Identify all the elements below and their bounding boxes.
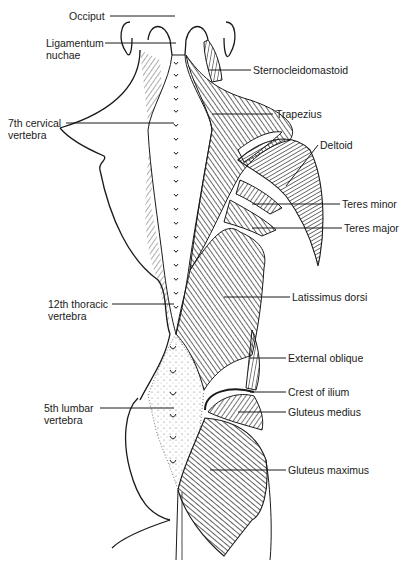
label-occiput: Occiput	[69, 10, 105, 22]
label-text: vertebra	[8, 129, 61, 141]
label-deltoid: Deltoid	[320, 139, 353, 151]
label-text: Deltoid	[320, 139, 353, 151]
anatomy-diagram: Occiput Ligamentum nuchae 7th cervical v…	[0, 0, 404, 574]
label-text: Occiput	[69, 10, 105, 22]
label-5th-lumbar-vertebra: 5th lumbar vertebra	[44, 402, 94, 426]
label-12th-thoracic-vertebra: 12th thoracic vertebra	[48, 298, 108, 322]
label-text: vertebra	[44, 414, 94, 426]
label-trapezius: Trapezius	[276, 108, 322, 120]
label-teres-minor: Teres minor	[342, 198, 397, 210]
label-gluteus-maximus: Gluteus maximus	[288, 464, 369, 476]
neck-outline	[121, 22, 235, 57]
sternocleidomastoid-muscle	[204, 40, 222, 82]
label-sternocleidomastoid: Sternocleidomastoid	[253, 64, 348, 76]
label-crest-of-ilium: Crest of ilium	[288, 386, 349, 398]
label-7th-cervical-vertebra: 7th cervical vertebra	[8, 117, 61, 141]
label-text: Gluteus medius	[288, 406, 361, 418]
label-text: Trapezius	[276, 108, 322, 120]
label-text: External oblique	[288, 352, 363, 364]
label-external-oblique: External oblique	[288, 352, 363, 364]
label-text: nuchae	[46, 49, 104, 61]
label-text: 5th lumbar	[44, 402, 94, 414]
label-text: Gluteus maximus	[288, 464, 369, 476]
label-text: Crest of ilium	[288, 386, 349, 398]
label-text: 12th thoracic	[48, 298, 108, 310]
label-text: vertebra	[48, 310, 108, 322]
label-text: Ligamentum	[46, 37, 104, 49]
label-latissimus-dorsi: Latissimus dorsi	[292, 291, 367, 303]
label-ligamentum-nuchae: Ligamentum nuchae	[46, 37, 104, 61]
label-text: 7th cervical	[8, 117, 61, 129]
label-text: Teres minor	[342, 198, 397, 210]
label-text: Sternocleidomastoid	[253, 64, 348, 76]
label-text: Latissimus dorsi	[292, 291, 367, 303]
label-teres-major: Teres major	[344, 222, 399, 234]
back-muscles-illustration	[0, 0, 404, 574]
label-gluteus-medius: Gluteus medius	[288, 406, 361, 418]
label-text: Teres major	[344, 222, 399, 234]
